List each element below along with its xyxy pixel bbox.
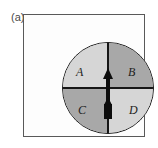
- quadrant-c-label: C: [78, 104, 86, 116]
- tail-arrow-body: [104, 104, 112, 119]
- tail-arrow-icon: [101, 97, 115, 123]
- quadrant-disc: A B C D: [62, 42, 154, 134]
- quadrant-a-label: A: [76, 66, 83, 78]
- figure-frame: A B C D: [23, 14, 145, 137]
- figure-panel: (a) A B C D: [0, 0, 158, 148]
- quadrant-b-label: B: [128, 66, 135, 78]
- quadrant-d-label: D: [129, 104, 138, 116]
